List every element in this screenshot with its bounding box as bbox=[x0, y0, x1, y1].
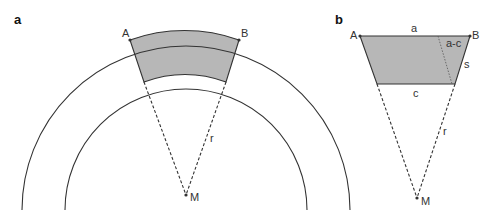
radius-line-right bbox=[186, 82, 226, 195]
radius-line-right bbox=[417, 84, 455, 198]
panel-a: a A B M r bbox=[14, 12, 350, 210]
point-m-label: M bbox=[190, 191, 199, 203]
annular-sector bbox=[130, 31, 239, 82]
radius-line-left bbox=[144, 82, 186, 195]
side-a-label: a bbox=[411, 22, 418, 34]
point-m-marker bbox=[184, 193, 187, 196]
side-a-minus-c-label: a-c bbox=[446, 37, 462, 49]
side-c-label: c bbox=[413, 87, 419, 99]
point-a-label: A bbox=[350, 29, 358, 41]
panel-b-label: b bbox=[335, 12, 343, 27]
radius-label: r bbox=[210, 132, 214, 144]
radius-label: r bbox=[443, 125, 447, 137]
panel-a-label: a bbox=[14, 12, 22, 27]
point-m-label: M bbox=[421, 195, 430, 207]
inner-arc bbox=[65, 89, 307, 210]
point-m-marker bbox=[415, 196, 418, 199]
point-a-marker bbox=[358, 34, 361, 37]
radius-line-left bbox=[377, 84, 417, 198]
side-s-label: s bbox=[464, 58, 470, 70]
point-b-label: B bbox=[472, 29, 479, 41]
figure: a A B M r b A B M a bbox=[0, 0, 497, 220]
point-b-label: B bbox=[241, 27, 248, 39]
panel-b: b A B M a a-c s c r bbox=[335, 12, 479, 207]
point-a-label: A bbox=[122, 27, 130, 39]
